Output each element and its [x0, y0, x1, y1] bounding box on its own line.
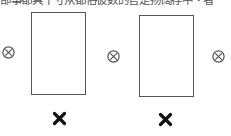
right-rectangle: [139, 15, 194, 97]
cropped-caption: 部事都具十寸从都俗彼数的官是扬阔存中・者: [0, 0, 231, 7]
left-rectangle: [31, 12, 86, 95]
bold-x-icon: [52, 111, 67, 126]
bold-x-icon: [158, 112, 173, 127]
circled-x-icon: [2, 46, 15, 59]
circled-x-icon: [212, 50, 225, 63]
circled-x-icon: [107, 50, 120, 63]
caption-text: 部事都具十寸从都俗彼数的官是扬阔存中・者: [0, 0, 214, 7]
